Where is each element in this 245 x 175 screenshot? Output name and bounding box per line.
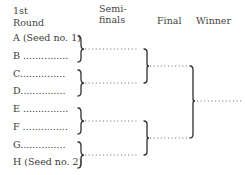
bracket-lines bbox=[0, 0, 245, 175]
bracket-final bbox=[190, 66, 195, 138]
brace-gh bbox=[78, 142, 84, 168]
bracket-semi-top bbox=[144, 49, 149, 83]
brace-cd bbox=[78, 70, 84, 96]
bracket-semi-bottom bbox=[144, 121, 149, 155]
brace-ab bbox=[78, 36, 84, 62]
brace-ef bbox=[78, 108, 84, 134]
